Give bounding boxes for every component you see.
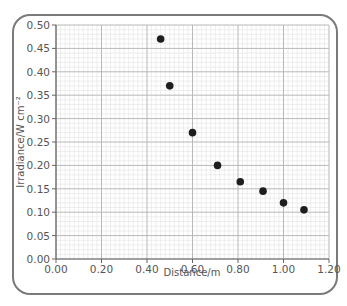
y-tick-label: 0.40 bbox=[27, 66, 50, 78]
data-point bbox=[236, 178, 244, 186]
y-tick-label: 0.00 bbox=[27, 253, 50, 265]
y-tick-label: 0.30 bbox=[27, 113, 50, 125]
y-tick-label: 0.50 bbox=[27, 19, 50, 31]
y-tick-label: 0.35 bbox=[27, 89, 50, 101]
scatter-chart: 0.000.200.400.600.801.001.20 0.000.050.1… bbox=[0, 0, 347, 306]
data-point bbox=[157, 35, 165, 43]
y-tick-label: 0.05 bbox=[27, 230, 50, 242]
x-tick-label: 1.00 bbox=[272, 263, 295, 275]
data-points bbox=[157, 35, 308, 213]
y-tick-label: 0.15 bbox=[27, 183, 50, 195]
data-point bbox=[166, 82, 174, 90]
data-point bbox=[259, 187, 267, 195]
y-tick-label: 0.25 bbox=[27, 136, 50, 148]
y-axis-title: Irradiance/W cm⁻² bbox=[15, 96, 26, 187]
data-point bbox=[214, 162, 222, 170]
data-point bbox=[189, 129, 197, 137]
x-tick-label: 1.20 bbox=[317, 263, 340, 275]
y-tick-label: 0.10 bbox=[27, 206, 50, 218]
x-tick-label: 0.80 bbox=[226, 263, 249, 275]
y-axis-ticks: 0.000.050.100.150.200.250.300.350.400.45… bbox=[27, 19, 56, 265]
data-point bbox=[280, 199, 288, 207]
x-axis-title: Distance/m bbox=[164, 267, 221, 278]
data-point bbox=[300, 206, 308, 214]
x-tick-label: 0.40 bbox=[135, 263, 158, 275]
y-tick-label: 0.45 bbox=[27, 42, 50, 54]
y-tick-label: 0.20 bbox=[27, 159, 50, 171]
x-tick-label: 0.20 bbox=[90, 263, 113, 275]
